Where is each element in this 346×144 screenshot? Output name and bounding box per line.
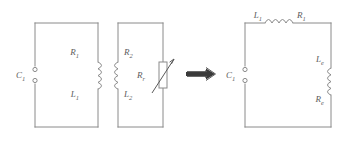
left-source-terminal-bottom (33, 78, 37, 82)
label-R2-left: R2 (123, 47, 134, 59)
label-Le-right: Le (315, 54, 324, 66)
variable-resistor-body (159, 62, 167, 88)
label-R1-left: R1 (69, 47, 79, 59)
primary-coil-L1 (98, 62, 102, 89)
left-source-C1: C1 (16, 67, 37, 82)
variable-resistor-Rr (152, 59, 174, 93)
implies-icon (186, 68, 216, 81)
left-circuit-labels: R1 L1 R2 L2 Rr (69, 47, 145, 101)
left-source-terminal-top (33, 67, 37, 71)
label-L1-right: L1 (253, 10, 262, 22)
secondary-coil-L2 (115, 62, 119, 89)
label-Re-right: Re (315, 94, 325, 106)
label-Rr-left: Rr (136, 70, 146, 82)
label-L2-left: L2 (123, 89, 133, 101)
right-side-inductor-Le (328, 68, 332, 95)
right-top-inductor-L1 (265, 20, 293, 24)
primary-coil-windings (98, 62, 102, 89)
label-L1-left: L1 (70, 89, 79, 101)
secondary-coil-windings (115, 62, 119, 89)
right-source-label: C1 (226, 70, 235, 82)
right-circuit-labels: L1 R1 Le Re (253, 10, 324, 106)
label-R1-right: R1 (296, 10, 306, 22)
right-source-terminal-top (243, 67, 247, 71)
right-source-C1: C1 (226, 67, 247, 82)
right-side-inductor-windings (328, 68, 332, 95)
left-primary-loop (35, 23, 98, 127)
right-top-inductor-windings (265, 20, 293, 24)
circuit-diagram-figure: C1 (0, 0, 346, 144)
right-circuit-loop (245, 23, 331, 127)
circuit-diagram-svg: C1 (0, 0, 346, 144)
left-source-label: C1 (16, 70, 25, 82)
right-source-terminal-bottom (243, 78, 247, 82)
